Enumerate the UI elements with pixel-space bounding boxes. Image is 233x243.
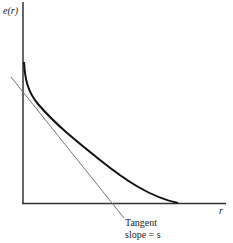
y-axis-label: e(r) xyxy=(3,5,18,16)
tangent-label: Tangent xyxy=(125,217,157,228)
tangent-line xyxy=(11,77,124,218)
x-axis-label: r xyxy=(219,205,223,216)
curve-e-of-r xyxy=(24,62,178,203)
diagram-canvas xyxy=(0,0,233,243)
slope-label: slope = s xyxy=(125,229,161,240)
